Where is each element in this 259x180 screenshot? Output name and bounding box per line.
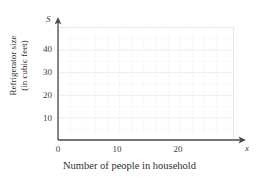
y-tick-label-40: 40 <box>36 45 52 54</box>
y-axis-arrowhead <box>55 17 62 25</box>
x-axis-variable-label: x <box>245 143 249 153</box>
y-tick-label-10: 10 <box>36 114 52 123</box>
x-tick-label-10: 10 <box>107 145 127 154</box>
plot-area <box>58 27 234 140</box>
x-axis-title: Number of people in household <box>0 160 259 171</box>
y-axis-title-line-1: Refrigerator size <box>8 10 19 122</box>
y-axis-variable-label: S <box>46 14 51 24</box>
chart-figure: S x 40 30 20 10 0 10 20 Refrigerator siz… <box>0 0 259 180</box>
y-tick-label-30: 30 <box>36 68 52 77</box>
y-tick-label-20: 20 <box>36 91 52 100</box>
x-tick-label-20: 20 <box>168 145 188 154</box>
y-axis-title: Refrigerator size (in cubic feet) <box>8 10 29 122</box>
grid-lines <box>58 27 234 140</box>
x-tick-label-0: 0 <box>48 145 68 154</box>
y-axis-title-line-2: (in cubic feet) <box>18 10 29 122</box>
